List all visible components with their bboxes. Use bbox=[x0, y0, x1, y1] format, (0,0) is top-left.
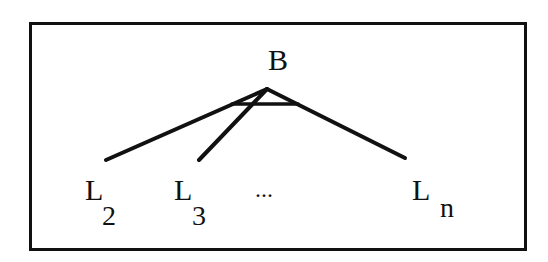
root-label: B bbox=[268, 45, 288, 75]
child-label-ln: L bbox=[412, 175, 430, 205]
tree-edges bbox=[0, 0, 548, 262]
edge-to-l2 bbox=[106, 89, 267, 160]
edge-to-l3 bbox=[199, 89, 267, 160]
edge-to-ln bbox=[267, 89, 405, 158]
child-subscript-3: 3 bbox=[192, 202, 206, 230]
child-label-l2: L bbox=[85, 175, 103, 205]
child-subscript-n: n bbox=[440, 194, 454, 222]
child-label-l3: L bbox=[174, 175, 192, 205]
child-subscript-2: 2 bbox=[102, 202, 116, 230]
ellipsis: ... bbox=[255, 177, 273, 201]
